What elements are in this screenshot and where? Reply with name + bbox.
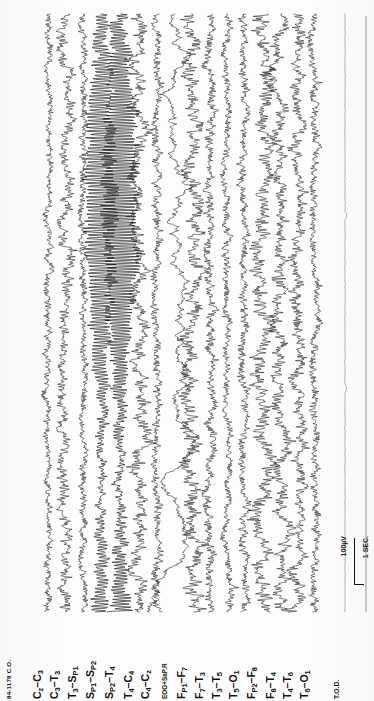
eeg-trace-sp2-t4: [99, 14, 142, 612]
channel-label-row: 84-1178 C.O. Cz–C3C3–T3T3–SP1SP1–SP2SP2–…: [0, 620, 374, 701]
eeg-trace-fp2-f8: [247, 14, 278, 612]
channel-label-sp2-t4: SP2–T4: [103, 666, 115, 699]
calibration-amplitude-label: 100µV: [340, 536, 347, 556]
channel-label-fp1-f7: FP1–F7: [175, 667, 187, 699]
channel-label-f7-t3: F7–T3: [193, 672, 205, 699]
recording-id-label: 84-1178 C.O.: [5, 660, 12, 699]
channel-label-c3-t3: C3–T3: [48, 671, 60, 699]
channel-label-f8-t4: F8–T4: [264, 672, 276, 699]
eeg-trace-t3-sp1: [78, 14, 89, 612]
channel-label-t-o-d: T.O.D.: [333, 680, 340, 699]
channel-label-c4-cz: C4–Cz: [139, 670, 151, 699]
calibration-marker: 100µV 1 SEC.: [336, 528, 374, 620]
eeg-trace-cz-c3: [41, 14, 54, 612]
calibration-time-label: 1 SEC.: [362, 536, 369, 558]
eeg-recording-sheet: 84-1178 C.O. Cz–C3C3–T3T3–SP1SP1–SP2SP2–…: [0, 0, 374, 701]
channel-label-t6-o1: T6–O1: [298, 670, 310, 699]
channel-label-t3-t5: T3–T5: [210, 672, 222, 699]
eeg-trace-t5-o1: [236, 14, 251, 612]
eeg-trace-f7-t3: [201, 14, 219, 612]
channel-label-fp2-f8: FP2–F8: [245, 667, 257, 699]
eeg-trace-c3-t3: [56, 14, 78, 612]
channel-label-sp1-sp2: SP1–SP2: [84, 661, 96, 699]
eeg-trace-c4-cz: [150, 14, 164, 612]
channel-label-eog-sap-r: EOG+SaP.R: [161, 663, 168, 699]
eeg-traces-panel: [0, 0, 374, 622]
eeg-trace-t6-o1: [306, 14, 323, 612]
channel-label-t4-t6: T4–T6: [281, 672, 293, 699]
eeg-trace-t3-t5: [220, 14, 239, 612]
channel-label-t4-c4: T4–C4: [122, 671, 134, 699]
channel-label-cz-c3: Cz–C3: [31, 670, 43, 699]
eeg-trace-t-o-d: [345, 14, 347, 612]
eeg-trace-t4-t6: [285, 14, 310, 612]
channel-label-t5-o1: T5–O1: [227, 670, 239, 699]
channel-label-t3-sp1: T3–SP1: [66, 666, 78, 699]
eeg-trace-canvas: [0, 0, 374, 622]
